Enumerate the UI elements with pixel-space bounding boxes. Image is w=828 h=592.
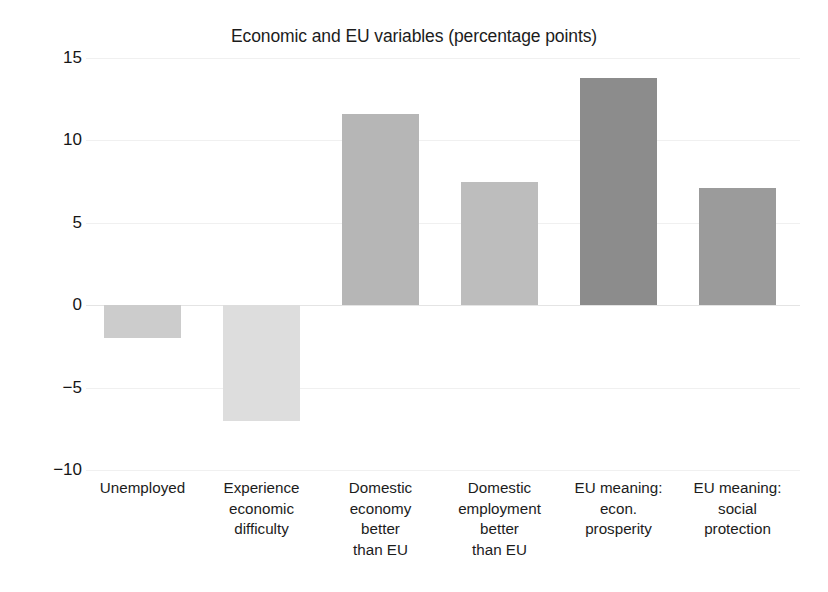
y-axis-tick-label: 15 xyxy=(0,48,82,68)
y-axis-tick-label: 10 xyxy=(0,130,82,150)
gridline xyxy=(86,223,800,224)
x-axis-category-label: Experienceeconomicdifficulty xyxy=(204,478,319,540)
bar xyxy=(580,78,657,305)
x-axis-label-line: economic xyxy=(204,499,319,520)
gridline xyxy=(86,470,800,471)
y-axis-tick-label: 5 xyxy=(0,213,82,233)
x-axis-label-line: Domestic xyxy=(442,478,557,499)
bar xyxy=(223,305,300,420)
x-axis-label-line: economy xyxy=(323,499,438,520)
x-axis-label-line: employment xyxy=(442,499,557,520)
chart-title: Economic and EU variables (percentage po… xyxy=(0,26,828,47)
bar xyxy=(461,182,538,306)
gridline xyxy=(86,140,800,141)
x-axis-label-line: econ. xyxy=(561,499,676,520)
x-axis-label-line: EU meaning: xyxy=(561,478,676,499)
zero-gridline xyxy=(86,305,800,306)
x-axis-category-label: Domesticemploymentbetterthan EU xyxy=(442,478,557,560)
x-axis-label-line: Unemployed xyxy=(85,478,200,499)
x-axis-label-line: than EU xyxy=(442,540,557,561)
y-axis-tick-label: −5 xyxy=(0,378,82,398)
chart-figure: Economic and EU variables (percentage po… xyxy=(0,0,828,592)
x-axis-label-line: difficulty xyxy=(204,519,319,540)
bar xyxy=(104,305,181,338)
y-axis-tick-label: 0 xyxy=(0,295,82,315)
gridline xyxy=(86,388,800,389)
plot-area xyxy=(86,58,800,470)
x-axis-label-line: Domestic xyxy=(323,478,438,499)
x-axis-category-label: Unemployed xyxy=(85,478,200,499)
x-axis-category-label: Domesticeconomybetterthan EU xyxy=(323,478,438,560)
x-axis-label-line: better xyxy=(323,519,438,540)
x-axis-label-line: prosperity xyxy=(561,519,676,540)
x-axis-label-line: than EU xyxy=(323,540,438,561)
y-axis-tick-label: −10 xyxy=(0,460,82,480)
x-axis-label-line: better xyxy=(442,519,557,540)
x-axis-label-line: social xyxy=(680,499,795,520)
x-axis-category-label: EU meaning:econ.prosperity xyxy=(561,478,676,540)
x-axis-category-label: EU meaning:socialprotection xyxy=(680,478,795,540)
x-axis-label-line: Experience xyxy=(204,478,319,499)
x-axis-label-line: EU meaning: xyxy=(680,478,795,499)
x-axis-label-line: protection xyxy=(680,519,795,540)
gridline xyxy=(86,58,800,59)
bar xyxy=(342,114,419,305)
bar xyxy=(699,188,776,305)
